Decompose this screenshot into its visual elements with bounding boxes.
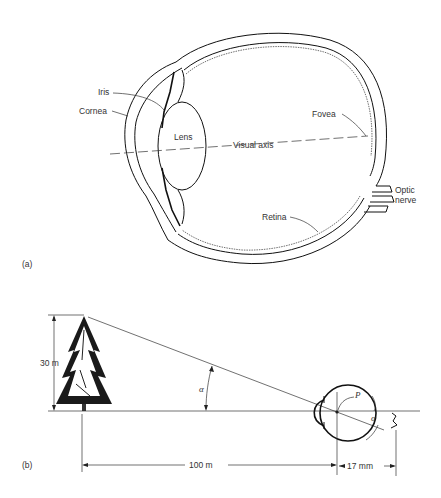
- ciliary-lower: [178, 190, 184, 224]
- iris-leader: [113, 93, 164, 110]
- height-arrow-head-top: [52, 315, 56, 321]
- cornea-leader: [112, 111, 128, 116]
- retina-leader: [290, 217, 318, 232]
- panel-b-label: (b): [22, 460, 33, 470]
- label-alpha-eye: α: [371, 413, 376, 423]
- retinal-image-icon: [391, 413, 397, 428]
- label-visual-axis: Visual axis: [233, 140, 273, 150]
- lens: [158, 102, 206, 190]
- sclera-inner: [178, 43, 376, 255]
- label-eye-depth: 17 mm: [347, 461, 373, 471]
- label-distance: 100 m: [189, 460, 213, 470]
- eye-diagram-figure: Iris Cornea Lens Visual axis Fovea Optic…: [0, 0, 441, 498]
- eye-globe: [320, 385, 376, 441]
- label-nerve: nerve: [395, 195, 417, 205]
- ciliary-upper: [178, 70, 184, 102]
- panel-a-label: (a): [22, 259, 33, 269]
- panel-b-geometry: [48, 315, 420, 476]
- label-lens: Lens: [174, 132, 192, 142]
- label-fovea: Fovea: [312, 109, 336, 119]
- height-arrow-head-bottom: [52, 405, 56, 411]
- p-pointer: [338, 397, 354, 410]
- label-optic: Optic: [395, 185, 416, 195]
- label-tree-height: 30 m: [40, 358, 59, 368]
- alpha-arrow-top: [209, 366, 214, 372]
- label-retina: Retina: [262, 212, 287, 222]
- alpha-arc: [206, 366, 212, 409]
- fovea-leader: [342, 114, 366, 136]
- cornea-outer: [125, 62, 176, 240]
- label-cornea: Cornea: [79, 106, 107, 116]
- sclera-outer: [168, 33, 387, 263]
- label-p: P: [354, 390, 361, 400]
- tree-icon: [56, 316, 112, 411]
- alpha-arrow: [204, 405, 208, 411]
- label-alpha: α: [199, 384, 204, 394]
- ray-line: [88, 317, 384, 430]
- label-iris: Iris: [98, 87, 109, 97]
